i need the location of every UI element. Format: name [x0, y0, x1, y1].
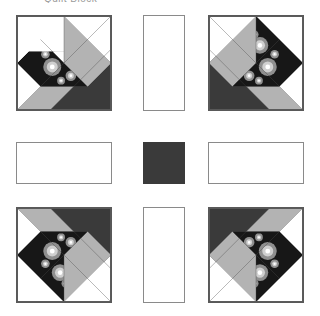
- sashing-top-vertical[interactable]: [143, 15, 185, 111]
- block-bottom-left[interactable]: [16, 207, 112, 303]
- clipped-header-text: Quilt Block: [44, 0, 154, 3]
- block-bottom-left-artwork: [17, 208, 111, 302]
- block-bottom-right[interactable]: [208, 207, 304, 303]
- block-top-right-artwork: [209, 16, 303, 110]
- center-square[interactable]: [143, 142, 185, 184]
- block-top-left-artwork: [17, 16, 111, 110]
- block-top-left[interactable]: [16, 15, 112, 111]
- sashing-left-horizontal[interactable]: [16, 142, 112, 184]
- block-top-right[interactable]: [208, 15, 304, 111]
- sashing-bottom-vertical[interactable]: [143, 207, 185, 303]
- quilt-layout-page: Quilt Block: [0, 0, 320, 316]
- block-bottom-right-artwork: [209, 208, 303, 302]
- sashing-right-horizontal[interactable]: [208, 142, 304, 184]
